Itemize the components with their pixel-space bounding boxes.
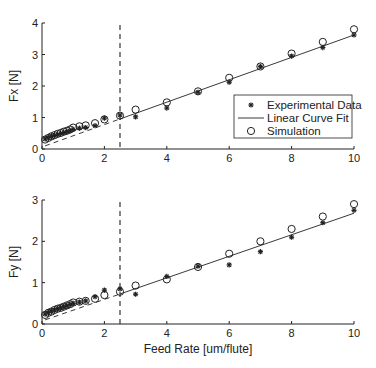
star-marker: [92, 294, 97, 299]
star-marker: [83, 298, 88, 303]
legend-item-label: Experimental Data: [267, 99, 362, 111]
x-tick-label: 10: [348, 327, 360, 339]
circle-marker: [350, 26, 357, 33]
y-tick-label: 1: [32, 112, 38, 124]
fit-line: [120, 213, 354, 294]
x-tick-label: 8: [289, 327, 295, 339]
star-marker: [320, 220, 325, 225]
circle-marker: [132, 106, 139, 113]
star-marker: [227, 262, 232, 267]
circle-marker: [132, 282, 139, 289]
star-marker: [320, 45, 325, 50]
star-marker: [258, 249, 263, 254]
y-tick-label: 0: [32, 143, 38, 155]
circle-marker: [288, 225, 295, 232]
legend-item-label: Simulation: [267, 125, 321, 137]
star-marker: [289, 235, 294, 240]
star-marker: [133, 114, 138, 119]
x-axis-label: Feed Rate [um/flute]: [144, 342, 253, 356]
x-tick-label: 6: [226, 327, 232, 339]
star-marker: [164, 105, 169, 110]
y-tick-label: 2: [32, 235, 38, 247]
force-vs-feed-rate-figure: 012340246810Fx [N] 01230246810Fy [N]Feed…: [0, 0, 376, 368]
x-tick-label: 2: [101, 152, 107, 164]
x-tick-label: 8: [289, 152, 295, 164]
star-marker: [92, 123, 97, 128]
x-tick-label: 0: [39, 327, 45, 339]
circle-marker: [319, 213, 326, 220]
y-axis-label: Fy [N]: [7, 246, 21, 278]
star-marker: [71, 301, 76, 306]
star-marker: [227, 80, 232, 85]
x-tick-label: 2: [101, 327, 107, 339]
star-marker: [77, 299, 82, 304]
x-tick-label: 4: [164, 152, 170, 164]
circle-marker: [257, 238, 264, 245]
legend: Experimental DataLinear Curve FitSimulat…: [234, 95, 362, 138]
star-marker: [77, 126, 82, 131]
star-marker: [133, 292, 138, 297]
star-marker: [117, 112, 122, 117]
star-marker: [195, 264, 200, 269]
star-marker: [258, 64, 263, 69]
y-tick-label: 0: [32, 318, 38, 330]
x-tick-label: 6: [226, 152, 232, 164]
y-tick-label: 2: [32, 80, 38, 92]
star-marker: [351, 32, 356, 37]
x-tick-label: 0: [39, 152, 45, 164]
star-marker: [248, 102, 253, 107]
y-tick-label: 3: [32, 194, 38, 206]
star-marker: [289, 53, 294, 58]
y-tick-label: 1: [32, 277, 38, 289]
y-axis-label: Fx [N]: [7, 70, 21, 102]
y-tick-label: 3: [32, 49, 38, 61]
star-marker: [102, 288, 107, 293]
fx-plot: 012340246810Fx [N]: [7, 17, 360, 164]
fy-plot: 01230246810Fy [N]Feed Rate [um/flute]: [7, 194, 360, 356]
circle-marker: [350, 201, 357, 208]
x-tick-label: 10: [348, 152, 360, 164]
x-tick-label: 4: [164, 327, 170, 339]
star-marker: [195, 90, 200, 95]
star-marker: [102, 116, 107, 121]
star-marker: [83, 125, 88, 130]
star-marker: [71, 127, 76, 132]
star-marker: [117, 286, 122, 291]
star-marker: [164, 274, 169, 279]
legend-item-label: Linear Curve Fit: [267, 112, 350, 124]
circle-marker: [319, 38, 326, 45]
y-tick-label: 4: [32, 17, 38, 29]
star-marker: [351, 208, 356, 213]
